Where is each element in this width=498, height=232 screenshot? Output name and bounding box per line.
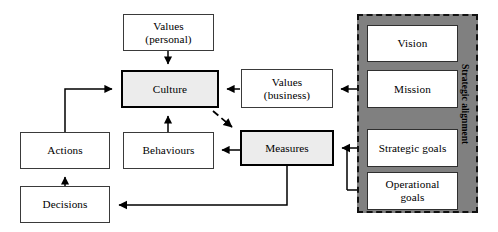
node-behaviours[interactable]: Behaviours	[123, 132, 214, 169]
node-operational-goals[interactable]: Operational goals	[367, 172, 458, 210]
node-actions[interactable]: Actions	[20, 132, 110, 169]
connector-culture-to-measures	[213, 111, 232, 127]
node-values-business[interactable]: Values (business)	[241, 69, 333, 108]
node-operational-goals-line2: goals	[386, 191, 440, 204]
diagram-canvas: Strategic alignment	[0, 0, 498, 232]
node-measures-line1: Measures	[265, 142, 309, 155]
node-actions-line1: Actions	[47, 144, 83, 157]
node-values-personal[interactable]: Values (personal)	[123, 14, 214, 51]
node-values-business-line2: (business)	[264, 89, 310, 102]
node-strategic-goals-line1: Strategic goals	[379, 142, 447, 155]
node-culture-line1: Culture	[153, 83, 187, 96]
node-measures[interactable]: Measures	[240, 130, 334, 166]
node-vision[interactable]: Vision	[367, 25, 458, 62]
connector-goals-merge-to-measures	[342, 148, 347, 190]
node-behaviours-line1: Behaviours	[143, 144, 195, 157]
node-values-personal-line1: Values	[145, 20, 191, 33]
node-decisions[interactable]: Decisions	[20, 186, 110, 223]
node-mission[interactable]: Mission	[367, 70, 458, 108]
node-values-personal-line2: (personal)	[145, 33, 191, 46]
node-strategic-goals[interactable]: Strategic goals	[367, 129, 458, 167]
node-values-business-line1: Values	[264, 76, 310, 89]
connector-actions-to-culture	[65, 89, 112, 133]
node-culture[interactable]: Culture	[121, 70, 219, 108]
node-decisions-line1: Decisions	[42, 198, 87, 211]
connector-measures-to-decisions	[119, 165, 287, 205]
node-vision-line1: Vision	[398, 37, 428, 50]
node-operational-goals-line1: Operational	[386, 178, 440, 191]
node-mission-line1: Mission	[394, 83, 431, 96]
strategic-alignment-label: Strategic alignment	[460, 64, 471, 144]
